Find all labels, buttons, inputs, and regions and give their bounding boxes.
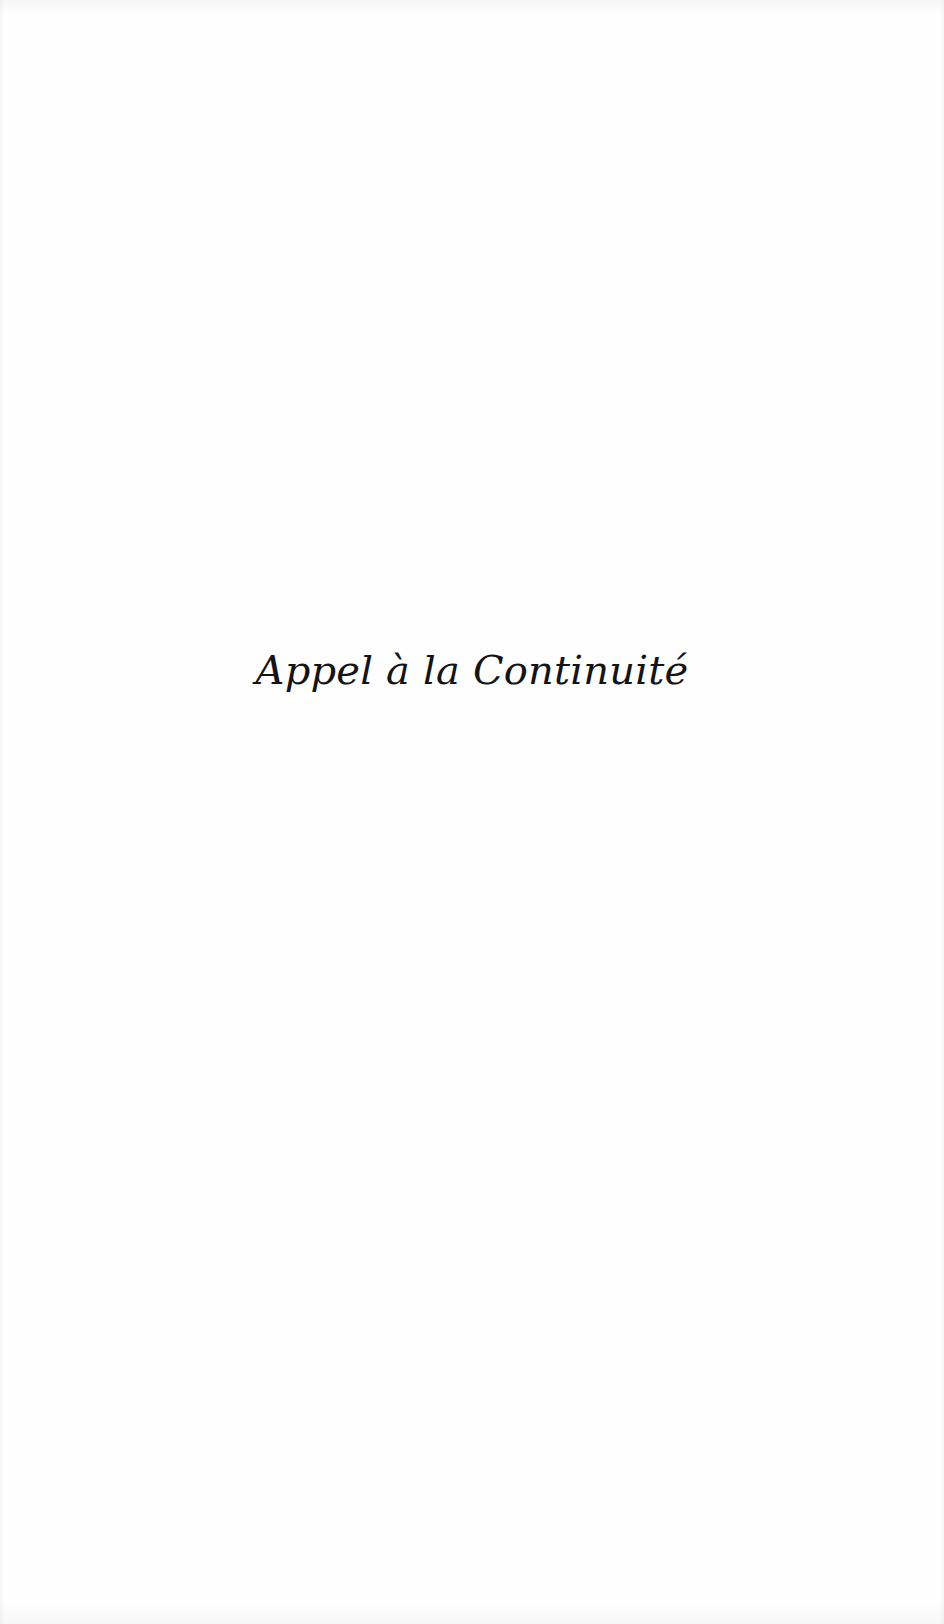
- scan-edge-right: [940, 0, 944, 1624]
- scan-edge-top: [0, 0, 944, 14]
- scan-edge-bottom: [0, 1604, 944, 1624]
- scan-edge-left: [0, 0, 4, 1624]
- book-page: Appel à la Continuité: [0, 0, 944, 1624]
- half-title: Appel à la Continuité: [0, 640, 944, 700]
